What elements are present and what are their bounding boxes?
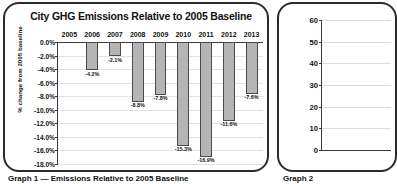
gridline [58, 150, 263, 151]
y-tick-mark [55, 42, 58, 43]
gridline [322, 85, 391, 86]
bar [200, 42, 212, 157]
gridline [322, 63, 391, 64]
y-axis-tick-label: 50 [310, 37, 318, 46]
y-axis-tick-label: -12.0% [34, 120, 55, 127]
gridline [322, 128, 391, 129]
y-tick-mark [55, 123, 58, 124]
y-tick-mark [55, 164, 58, 165]
bar-data-label: -7.8% [153, 95, 167, 101]
y-axis-tick-label: 40 [310, 59, 318, 68]
y-axis-tick-label: 0.0% [40, 39, 55, 46]
x-axis-tick-label: 2008 [130, 31, 146, 38]
bar-data-label: -8.8% [131, 102, 145, 108]
gridline [322, 42, 391, 43]
y-axis-tick-label: -6.0% [38, 79, 55, 86]
y-axis-tick-label: 0 [314, 146, 318, 155]
x-axis-tick-label: 2013 [244, 31, 260, 38]
y-axis-tick-label: -16.0% [34, 147, 55, 154]
y-axis-tick-label: 10 [310, 124, 318, 133]
bar [132, 42, 144, 102]
y-tick-mark [55, 96, 58, 97]
bar-data-label: -15.3% [175, 146, 192, 152]
graph-1-panel: City GHG Emissions Relative to 2005 Base… [3, 2, 269, 172]
y-tick-mark [319, 42, 322, 43]
y-axis-label: % change from 2005 baseline [16, 10, 23, 130]
y-axis-tick-label: -10.0% [34, 106, 55, 113]
bar-data-label: -7.6% [245, 94, 259, 100]
bar [223, 42, 235, 121]
y-tick-mark [55, 137, 58, 138]
y-axis-tick-label: 20 [310, 102, 318, 111]
bar [109, 42, 121, 56]
graph-2-caption: Graph 2 [283, 174, 343, 183]
y-tick-mark [55, 150, 58, 151]
y-tick-mark [319, 20, 322, 21]
y-axis-tick-label: 30 [310, 81, 318, 90]
gridline [58, 137, 263, 138]
y-axis-tick-label: -4.0% [38, 66, 55, 73]
gridline [58, 164, 263, 165]
y-tick-mark [319, 150, 322, 151]
x-axis-tick-label: 2007 [107, 31, 123, 38]
x-axis-tick-label: 2010 [175, 31, 191, 38]
bar-data-label: -4.2% [85, 71, 99, 77]
bar-data-label: -16.9% [198, 157, 215, 163]
plot-area: 0.0%-2.0%-4.0%-6.0%-8.0%-10.0%-12.0%-14.… [57, 42, 263, 164]
x-axis-tick-label: 2012 [221, 31, 237, 38]
x-axis-tick-label: 2005 [62, 31, 78, 38]
gridline [322, 20, 391, 21]
bar [86, 42, 98, 70]
graph-1-caption: Graph 1 — Emissions Relative to 2005 Bas… [8, 174, 270, 183]
y-tick-mark [55, 56, 58, 57]
y-axis-tick-label: 60 [310, 16, 318, 25]
y-tick-mark [55, 69, 58, 70]
x-axis-tick-label: 2009 [153, 31, 169, 38]
bar [246, 42, 258, 94]
y-tick-mark [319, 85, 322, 86]
y-tick-mark [55, 110, 58, 111]
gridline [322, 107, 391, 108]
y-axis-tick-label: -2.0% [38, 52, 55, 59]
bar-data-label: -2.1% [108, 57, 122, 63]
y-axis-tick-label: -18.0% [34, 161, 55, 168]
x-axis-tick-label: 2011 [198, 31, 213, 38]
x-axis-tick-label: 2006 [84, 31, 100, 38]
y-tick-mark [319, 63, 322, 64]
plot-area-2: 6050403020100 [321, 20, 391, 150]
bar [177, 42, 189, 146]
gridline [322, 150, 391, 151]
y-tick-mark [55, 83, 58, 84]
y-tick-mark [319, 128, 322, 129]
bar-data-label: -11.6% [220, 121, 237, 127]
bar [155, 42, 167, 95]
y-axis-tick-label: -8.0% [38, 93, 55, 100]
y-tick-mark [319, 107, 322, 108]
y-axis-tick-label: -14.0% [34, 133, 55, 140]
chart-title: City GHG Emissions Relative to 2005 Base… [19, 10, 263, 22]
